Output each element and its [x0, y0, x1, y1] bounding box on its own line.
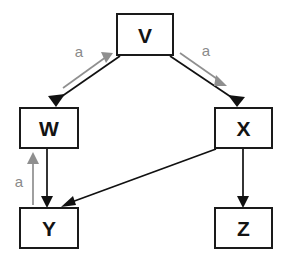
edge-v-to-x-arrowhead	[228, 95, 245, 107]
annotation-a-right-top-arrowhead	[214, 75, 227, 86]
edge-v-to-w-arrowhead	[48, 94, 65, 107]
node-y-label: Y	[42, 217, 56, 240]
node-w[interactable]: W	[20, 108, 78, 148]
edge-v-to-x	[170, 56, 245, 107]
annotation-a-right-top-label: a	[202, 42, 211, 59]
annotation-a-left-top-line	[63, 57, 106, 88]
edge-v-to-x-line	[170, 56, 234, 99]
node-z-label: Z	[237, 217, 250, 240]
edge-x-to-z	[237, 148, 249, 208]
annotation-a-left-low-label: a	[15, 173, 24, 190]
node-w-label: W	[39, 117, 59, 140]
edge-w-to-y-arrowhead	[41, 196, 53, 208]
graph-diagram: V W X Y Z a a	[0, 0, 286, 265]
edge-w-to-y	[41, 148, 53, 208]
edge-x-to-z-arrowhead	[237, 196, 249, 208]
node-y[interactable]: Y	[20, 208, 78, 248]
edge-v-to-w	[48, 56, 120, 107]
annotation-a-left-top-label: a	[75, 43, 84, 60]
node-v[interactable]: V	[117, 14, 173, 55]
edge-x-to-y	[61, 149, 216, 207]
node-x[interactable]: X	[215, 108, 272, 148]
edge-x-to-y-arrowhead	[61, 196, 76, 207]
node-x-label: X	[236, 117, 250, 140]
edge-v-to-w-line	[58, 56, 120, 99]
edge-x-to-y-line	[69, 149, 216, 203]
annotation-a-left-low-arrowhead	[27, 152, 39, 164]
node-z[interactable]: Z	[215, 208, 272, 248]
annotation-a-left-low: a	[15, 152, 39, 205]
node-v-label: V	[138, 24, 152, 47]
diagram-canvas: V W X Y Z a a	[0, 0, 286, 265]
